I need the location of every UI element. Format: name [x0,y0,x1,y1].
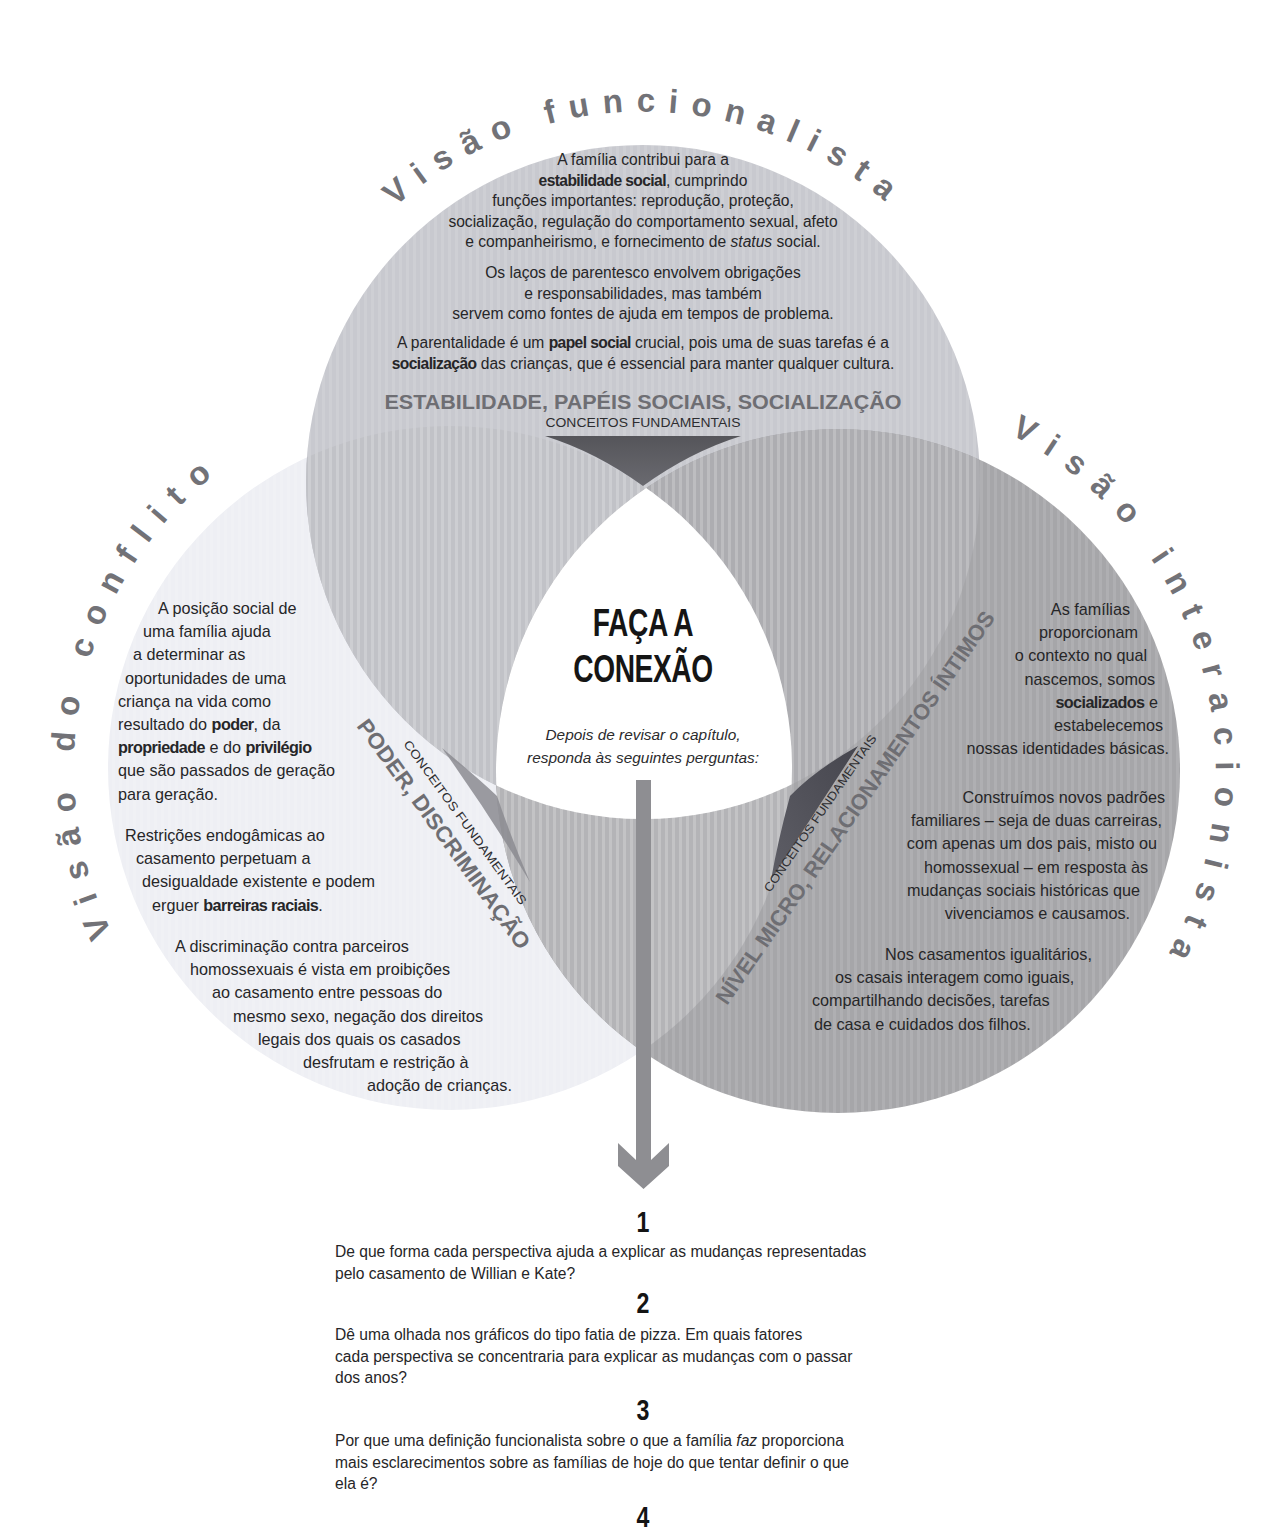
text-line: com apenas um dos pais, misto ou [600,832,1170,855]
key-term: estabilidade social [539,172,666,189]
text-line: ela é? [335,1473,975,1495]
text-segment: ela é? [335,1475,378,1492]
text-segment: os casais interagem como iguais, [835,968,1074,986]
text-segment: dos anos? [335,1369,407,1386]
text-segment: socialização, regulação do comportamento… [448,213,837,230]
text-segment: Dê uma olhada nos gráficos do tipo fatia… [335,1326,802,1343]
center-subtitle-line: responda às seguintes perguntas: [493,746,793,769]
key-term: socialização [392,355,477,372]
text-segment: . [318,896,323,914]
text-line: adoção de crianças. [0,1074,600,1097]
text-segment: criança na vida como [118,692,271,710]
text-segment: De que forma cada perspectiva ajuda a ex… [335,1243,866,1260]
center-title: FAÇA A CONEXÃO [532,600,754,692]
text-segment: Os laços de parentesco envolvem obrigaçõ… [485,264,801,281]
text-segment: de casa e cuidados dos filhos. [814,1015,1031,1033]
text-segment: proporcionam [1039,623,1138,641]
text-segment: e do [205,738,246,756]
text-segment: mais esclarecimentos sobre as famílias d… [335,1454,849,1471]
key-term: barreiras raciais [203,896,318,914]
text-line: homossexual – em resposta às [600,856,1170,879]
text-segment: casamento perpetuam a [136,849,311,867]
text-line: Os laços de parentesco envolvem obrigaçõ… [343,263,943,284]
venn-infographic: Visão funcionalista Visão do conflito Vi… [0,0,1284,1532]
question-text: De que forma cada perspectiva ajuda a ex… [335,1241,975,1284]
text-line: criança na vida como [0,690,600,713]
text-segment: uma família ajuda [143,622,271,640]
text-line: A família contribui para a [343,150,943,171]
text-line: socialização, regulação do comportamento… [343,212,943,233]
text-segment: mudanças sociais históricas que [907,881,1140,899]
text-line: casamento perpetuam a [0,847,600,870]
center-subtitle-line: Depois de revisar o capítulo, [493,723,793,746]
text-segment: resultado do [118,715,212,733]
text-line: uma família ajuda [0,620,600,643]
key-term: poder [212,715,254,733]
text-segment: erguer [152,896,203,914]
text-line: mais esclarecimentos sobre as famílias d… [335,1452,975,1474]
text-line: compartilhando decisões, tarefas [0,989,812,1012]
text-segment: social. [772,233,821,250]
text-segment: o contexto no qual [1015,646,1147,664]
text-segment: As famílias [1051,600,1130,618]
text-line: os casais interagem como iguais, [0,966,835,989]
question-number: 4 [397,1502,890,1532]
text-segment: Nos casamentos igualitários, [885,945,1092,963]
emphasis-term: faz [736,1432,757,1449]
center-subtitle: Depois de revisar o capítulo, responda à… [493,723,793,769]
text-segment: estabelecemos [1054,716,1163,734]
text-segment: Restrições endogâmicas ao [125,826,325,844]
functionalist-key-concepts-label: CONCEITOS FUNDAMENTAIS [546,416,741,430]
text-segment: nossas identidades básicas. [967,739,1169,757]
text-segment: A parentalidade é um [397,334,549,351]
text-line: para geração. [0,783,600,806]
text-segment: homossexual – em resposta às [924,858,1148,876]
text-line: Nos casamentos igualitários, [0,943,885,966]
key-term: privilégio [245,738,311,756]
text-line: pelo casamento de Willian e Kate? [335,1263,975,1285]
text-segment: das crianças, que é essencial para mante… [476,355,894,372]
text-line: dos anos? [335,1367,975,1389]
interactionist-paragraph: Construímos novos padrões familiares – s… [600,786,1170,925]
text-line: funções importantes: reprodução, proteçã… [343,191,943,212]
interactionist-paragraph: Nos casamentos igualitários, os casais i… [0,943,600,1036]
text-line: familiares – seja de duas carreiras, [600,809,1170,832]
functionalist-paragraph: A família contribui para a estabilidade … [343,150,943,253]
text-line: socialização das crianças, que é essenci… [343,354,943,375]
text-line: desfrutam e restrição à [0,1051,600,1074]
text-line: Restrições endogâmicas ao [0,824,600,847]
text-line: cada perspectiva se concentraria para ex… [335,1346,975,1368]
text-segment: para geração. [118,785,218,803]
question-text: Por que uma definição funcionalista sobr… [335,1430,975,1495]
text-segment: , da [254,715,281,733]
text-segment: A família contribui para a [557,151,729,168]
text-segment: com apenas um dos pais, misto ou [907,834,1157,852]
conflict-paragraph: A posição social de uma família ajuda a … [0,597,600,806]
text-segment: crucial, pois uma de suas tarefas é a [631,334,889,351]
text-line: socializados e [600,691,1170,714]
functionalist-paragraph: Os laços de parentesco envolvem obrigaçõ… [343,263,943,325]
text-segment: e responsabilidades, mas também [524,285,762,302]
functionalist-key-concepts: ESTABILIDADE, PAPÉIS SOCIAIS, SOCIALIZAÇ… [385,390,902,413]
text-line: De que forma cada perspectiva ajuda a ex… [335,1241,975,1263]
text-line: Construímos novos padrões [600,786,1170,809]
text-line: mudanças sociais históricas que [600,879,1170,902]
text-segment: familiares – seja de duas carreiras, [911,811,1162,829]
functionalist-paragraph: A parentalidade é um papel social crucia… [343,333,943,374]
text-segment: Por que uma definição funcionalista sobr… [335,1432,736,1449]
text-line: A parentalidade é um papel social crucia… [343,333,943,354]
text-segment: desigualdade existente e podem [142,872,375,890]
text-segment: que são passados de geração [118,761,335,779]
text-line: desigualdade existente e podem [0,870,600,893]
text-segment: servem como fontes de ajuda em tempos de… [452,305,833,322]
center-title-line: FAÇA A [532,600,754,646]
conflict-paragraph: Restrições endogâmicas ao casamento perp… [0,824,600,917]
text-segment: funções importantes: reprodução, proteçã… [492,192,794,209]
question-number: 1 [397,1207,890,1237]
text-segment: compartilhando decisões, tarefas [812,991,1050,1009]
emphasis-term: status [731,233,773,250]
text-segment: vivenciamos e causamos. [945,904,1130,922]
text-line: servem como fontes de ajuda em tempos de… [343,304,943,325]
text-segment: Construímos novos padrões [963,788,1165,806]
text-segment: adoção de crianças. [367,1076,512,1094]
